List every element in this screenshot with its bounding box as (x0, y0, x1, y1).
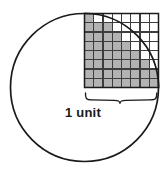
grid-cell (140, 78, 149, 87)
grid-cell (103, 69, 112, 78)
grid-cell (122, 69, 131, 78)
grid-cell (94, 69, 103, 78)
grid-cell (140, 51, 149, 60)
grid-cell (149, 14, 158, 23)
grid-cell (122, 32, 131, 41)
grid-cell (94, 23, 103, 32)
grid-cell (112, 32, 121, 41)
grid-cell (131, 60, 140, 69)
grid-cell (131, 78, 140, 87)
grid-cell (112, 51, 121, 60)
grid-cell (131, 14, 140, 23)
grid-cell (112, 41, 121, 50)
grid-cell (94, 78, 103, 87)
grid-cell (140, 14, 149, 23)
grid-cell (131, 41, 140, 50)
grid-cell (112, 60, 121, 69)
grid-cell (140, 60, 149, 69)
grid-cell (112, 69, 121, 78)
grid-cell (149, 78, 158, 87)
grid-cell (85, 14, 94, 23)
grid-cell (103, 32, 112, 41)
grid-cell (149, 23, 158, 32)
grid-cell (94, 51, 103, 60)
grid-cell (140, 69, 149, 78)
grid-cell (103, 60, 112, 69)
grid-cell (85, 69, 94, 78)
grid-cell (85, 32, 94, 41)
grid-cell (85, 78, 94, 87)
grid-cell (103, 41, 112, 50)
grid-cell (112, 23, 121, 32)
grid-cell (85, 51, 94, 60)
grid-cell (140, 23, 149, 32)
grid-cell (112, 78, 121, 87)
grid-cell (85, 41, 94, 50)
unit-brace (86, 93, 157, 103)
grid-cell (94, 41, 103, 50)
grid-cell (131, 51, 140, 60)
grid-cell (122, 78, 131, 87)
grid-cell (103, 23, 112, 32)
grid-cell (122, 41, 131, 50)
grid-cell (149, 41, 158, 50)
figure-canvas (0, 0, 166, 172)
grid-cell (149, 32, 158, 41)
grid-cell (131, 69, 140, 78)
grid-cell (122, 51, 131, 60)
grid-cell (94, 60, 103, 69)
grid-cell (85, 23, 94, 32)
grid-cell (85, 60, 94, 69)
grid-cell (122, 60, 131, 69)
circle-grid-figure: 1 unit (0, 0, 166, 172)
grid-cell (94, 32, 103, 41)
grid-cell (103, 51, 112, 60)
grid-cell (122, 14, 131, 23)
grid-cell (103, 78, 112, 87)
unit-length-label: 1 unit (0, 105, 166, 121)
